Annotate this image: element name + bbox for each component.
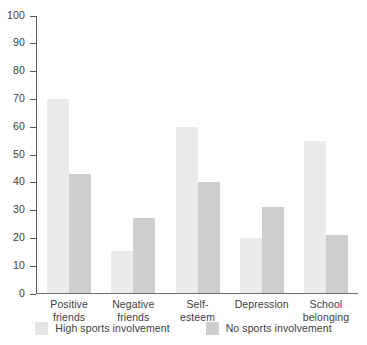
y-axis-tick: 70 — [30, 99, 36, 100]
x-axis-category-label: Negativefriends — [101, 298, 165, 323]
y-axis-tick: 90 — [30, 43, 36, 44]
y-axis-tick: 0 — [30, 294, 36, 295]
bar-group — [230, 16, 294, 293]
category-label-line: Negative — [101, 298, 165, 311]
bar — [198, 182, 220, 293]
y-axis-tick: 40 — [30, 182, 36, 183]
plot-area: 1009080706050403020100 — [36, 16, 358, 294]
y-axis-tick: 60 — [30, 127, 36, 128]
bar — [69, 174, 91, 293]
bar — [133, 218, 155, 293]
bar — [111, 251, 133, 293]
bar-group — [101, 16, 165, 293]
legend-swatch-high — [35, 322, 48, 335]
bar — [262, 207, 284, 293]
y-axis-tick-label: 20 — [13, 231, 25, 244]
legend-item: High sports involvement — [35, 322, 169, 335]
legend-label: High sports involvement — [55, 322, 169, 335]
y-axis-tick: 50 — [30, 155, 36, 156]
bar — [47, 99, 69, 293]
bar — [176, 127, 198, 293]
x-axis-category-label: Schoolbelonging — [294, 298, 358, 323]
bar — [326, 235, 348, 293]
bar-groups — [37, 16, 358, 293]
x-axis-category-labels: PositivefriendsNegativefriendsSelf-estee… — [37, 298, 358, 323]
y-axis-tick: 80 — [30, 71, 36, 72]
chart-legend: High sports involvementNo sports involve… — [0, 322, 367, 335]
y-axis-tick-label: 100 — [7, 9, 25, 22]
y-axis-tick-label: 60 — [13, 120, 25, 133]
bar — [240, 238, 262, 293]
x-axis-category-label: Self-esteem — [165, 298, 229, 323]
bar-chart: 1009080706050403020100 PositivefriendsNe… — [0, 0, 367, 345]
y-axis-tick-label: 50 — [13, 148, 25, 161]
bar-group — [165, 16, 229, 293]
y-axis-tick: 100 — [30, 16, 36, 17]
bar-group — [294, 16, 358, 293]
y-axis-tick-label: 0 — [19, 287, 25, 300]
bar-group — [37, 16, 101, 293]
y-axis-tick-label: 40 — [13, 175, 25, 188]
x-axis-category-label: Positivefriends — [37, 298, 101, 323]
x-axis-category-label: Depression — [230, 298, 294, 323]
y-axis-tick-label: 30 — [13, 203, 25, 216]
legend-swatch-no — [206, 322, 219, 335]
category-label-line: School — [294, 298, 358, 311]
category-label-line: Positive — [37, 298, 101, 311]
x-axis-line — [36, 293, 358, 294]
bar — [304, 141, 326, 293]
y-axis-tick-label: 80 — [13, 64, 25, 77]
category-label-line: Self- — [165, 298, 229, 311]
legend-item: No sports involvement — [206, 322, 332, 335]
category-label-line: Depression — [230, 298, 294, 311]
y-axis-tick-label: 10 — [13, 259, 25, 272]
legend-label: No sports involvement — [226, 322, 332, 335]
y-axis-tick: 10 — [30, 266, 36, 267]
y-axis-tick: 30 — [30, 210, 36, 211]
y-axis-tick-label: 90 — [13, 36, 25, 49]
y-axis-tick-label: 70 — [13, 92, 25, 105]
y-axis-tick: 20 — [30, 238, 36, 239]
